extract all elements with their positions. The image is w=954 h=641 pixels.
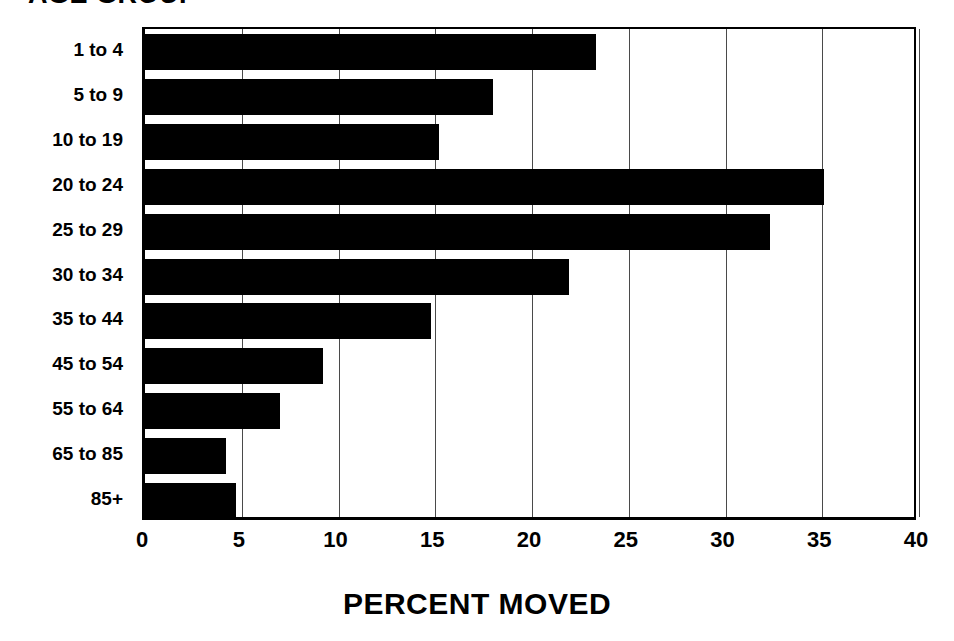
bar-row [145,169,914,205]
category-label: 1 to 4 [73,40,123,60]
bar-row [145,34,914,70]
x-axis-title: PERCENT MOVED [0,586,954,622]
category-label: 45 to 54 [52,354,123,374]
x-tick-label: 0 [136,527,148,553]
bar [145,169,824,205]
x-tick-label: 20 [517,527,541,553]
bar-row [145,303,914,339]
x-tick-label: 15 [420,527,444,553]
bar-row [145,483,914,519]
tick-nub [145,209,158,211]
bars-layer [145,29,914,517]
tick-nub [145,119,158,121]
category-label: 25 to 29 [52,220,123,240]
tick-nub [145,298,158,300]
bar [145,393,280,429]
bar-chart: AGE GROUP 1 to 45 to 910 to 1920 to 2425… [0,0,954,641]
category-axis-labels: 1 to 45 to 910 to 1920 to 2425 to 2930 t… [0,27,133,520]
bar [145,438,226,474]
x-tick-label: 30 [710,527,734,553]
bar [145,259,569,295]
x-tick-label: 5 [233,527,245,553]
bar [145,79,493,115]
tick-nub [145,254,158,256]
value-axis-labels: 0510152025303540 [142,527,916,561]
gridline [919,29,920,517]
category-label: 65 to 85 [52,444,123,464]
tick-nub [145,74,158,76]
tick-nub [145,164,158,166]
category-label: 10 to 19 [52,130,123,150]
category-label: 5 to 9 [73,85,123,105]
bar-row [145,124,914,160]
x-tick-label: 35 [807,527,831,553]
bar-row [145,438,914,474]
bar-row [145,79,914,115]
category-label: 85+ [91,489,123,509]
bar-row [145,348,914,384]
x-tick-label: 40 [904,527,928,553]
x-tick-label: 10 [323,527,347,553]
tick-nub [145,478,158,480]
bar-row [145,393,914,429]
bar [145,348,323,384]
bar [145,124,439,160]
x-tick-label: 25 [614,527,638,553]
category-label: 35 to 44 [52,309,123,329]
tick-nub [145,433,158,435]
tick-nub [145,388,158,390]
tick-nub [145,343,158,345]
category-label: 20 to 24 [52,175,123,195]
bar-row [145,259,914,295]
plot-area [142,27,916,520]
chart-title: AGE GROUP [28,0,198,8]
category-label: 55 to 64 [52,399,123,419]
bar [145,303,431,339]
category-label: 30 to 34 [52,265,123,285]
bar [145,483,236,519]
bar [145,34,596,70]
bar-row [145,214,914,250]
bar [145,214,770,250]
